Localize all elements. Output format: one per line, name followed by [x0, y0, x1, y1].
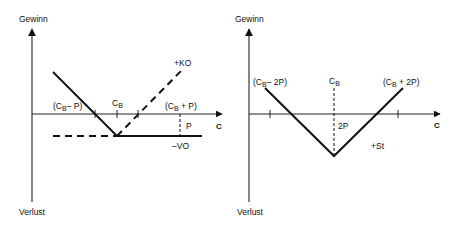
right-c-axis-label: C	[434, 121, 440, 130]
label-ko: +KO	[174, 58, 192, 68]
label-cb-plus-p: (CB + P)	[165, 101, 197, 112]
left-gewinn-label: Gewinn	[19, 14, 48, 24]
label-right-cb: CB	[329, 76, 340, 87]
right-gewinn-label: Gewinn	[235, 14, 264, 24]
right-verlust-label: Verlust	[237, 207, 264, 217]
label-cb-minus-2p: (CB– 2P)	[253, 77, 287, 88]
left-verlust-label: Verlust	[19, 207, 46, 217]
label-2p: 2P	[338, 121, 349, 131]
label-cb-plus-2p: (CB + 2P)	[383, 77, 420, 88]
label-vo: –VO	[172, 141, 189, 151]
put-payoff-line	[53, 72, 117, 136]
left-chart: Gewinn Verlust C (CB– P) CB (CB + P) +KO…	[19, 14, 222, 217]
payoff-diagrams: Gewinn Verlust C (CB– P) CB (CB + P) +KO…	[0, 0, 460, 227]
label-cb-minus-p: (CB– P)	[53, 101, 82, 112]
label-st: +St	[371, 141, 385, 151]
label-p: P	[186, 121, 192, 131]
right-chart: Gewinn Verlust C (CB– 2P) CB (CB + 2P) 2…	[235, 14, 440, 217]
label-cb: CB	[112, 98, 123, 109]
left-c-axis-label: C	[216, 122, 222, 131]
